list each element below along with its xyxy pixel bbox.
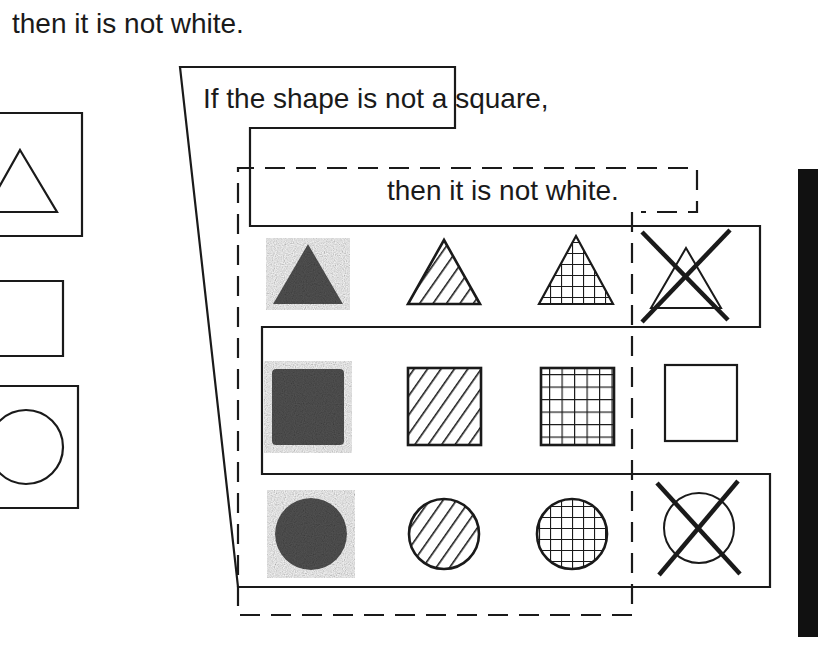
left-item-circle (0, 386, 78, 508)
rule-consequent: then it is not white. (387, 175, 619, 206)
square-diagonal-hatch (408, 368, 481, 445)
left-item-square (0, 281, 63, 356)
circle-white-crossed (657, 481, 740, 575)
triangle-grid-hatch (539, 236, 613, 304)
triangle-icon (0, 150, 57, 212)
triangle-diagonal-hatch (408, 240, 480, 304)
square-solid (272, 369, 344, 445)
logic-diagram: then it is not white. If the shape is no… (0, 0, 818, 651)
row-squares (272, 365, 737, 445)
circle-diagonal-hatch (409, 499, 479, 569)
row-circles (275, 481, 740, 575)
circle-grid-hatch (537, 499, 607, 569)
row-triangles (273, 230, 730, 322)
side-bar (798, 169, 818, 637)
square-grid-hatch (541, 368, 614, 445)
circle-icon (0, 410, 63, 484)
left-item-triangle (0, 113, 82, 236)
triangle-white-crossed (642, 230, 730, 322)
top-caption: then it is not white. (12, 8, 244, 39)
square-white (665, 365, 737, 441)
circle-solid (275, 498, 347, 570)
triangle-solid (273, 244, 343, 304)
rule-antecedent: If the shape is not a square, (203, 83, 549, 114)
square-icon (0, 281, 63, 356)
left-panel (0, 113, 82, 508)
